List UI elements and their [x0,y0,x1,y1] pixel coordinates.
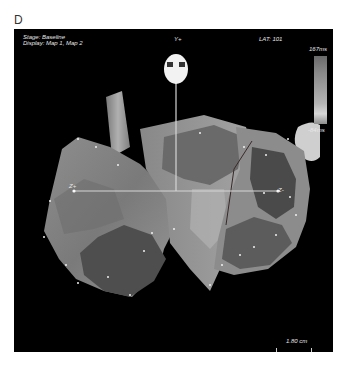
scale-label: 1.80 cm [286,338,307,345]
display-label: Display: Map 1, Map 2 [23,40,83,47]
lat-label: LAT: 101 [259,36,282,43]
head-orientation-icon [164,54,188,84]
map-viewport[interactable]: Stage: Baseline Display: Map 1, Map 2 Y+… [14,29,333,352]
colorbar-min-label: -84ms [308,127,325,134]
heart-map[interactable] [14,29,333,352]
z-plus-label: Z+ [69,183,76,190]
y-axis-label: Y+ [174,36,182,43]
colorbar-max-label: 167ms [309,46,327,53]
z-minus-label: Z- [278,187,284,194]
panel-letter: D [14,13,23,27]
scale-bar [276,348,312,352]
colorbar [314,56,327,124]
